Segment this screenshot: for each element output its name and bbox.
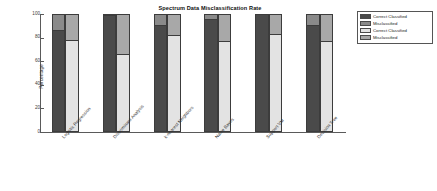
bar-segment-correct-classified <box>204 20 218 132</box>
y-tick-label: 20 <box>24 106 40 111</box>
page-title: Spectrum Data Misclassification Rate <box>95 5 325 11</box>
legend: Correct ClassifiedMisclassifiedCorrect C… <box>357 11 433 44</box>
bar-segment-correct-classified <box>103 16 117 132</box>
bar-segment-correct-classified <box>306 26 320 132</box>
y-tick-label: 60 <box>24 59 40 64</box>
legend-swatch-icon <box>360 21 371 26</box>
y-axis-tick-labels: 020406080100 <box>18 0 40 191</box>
legend-label: Misclassified <box>373 36 397 40</box>
bar-segment-misclassified <box>320 14 334 42</box>
stacked-bar[interactable] <box>320 14 334 132</box>
stacked-bar[interactable] <box>306 14 320 132</box>
y-tick-label: 0 <box>24 130 40 135</box>
y-tick-label: 40 <box>24 82 40 87</box>
legend-item[interactable]: Misclassified <box>360 34 430 40</box>
y-tick-mark <box>41 132 44 133</box>
bar-segment-misclassified <box>218 14 232 42</box>
bar-segment-misclassified <box>306 14 320 26</box>
bar-segment-misclassified <box>269 14 283 35</box>
legend-swatch-icon <box>360 28 371 33</box>
stacked-bar[interactable] <box>204 14 218 132</box>
x-axis-line <box>40 132 346 133</box>
stacked-bar[interactable] <box>269 14 283 132</box>
y-tick-label: 80 <box>24 35 40 40</box>
legend-swatch-icon <box>360 35 371 40</box>
legend-item[interactable]: Correct Classified <box>360 27 430 33</box>
stacked-bar[interactable] <box>52 14 66 132</box>
legend-item[interactable]: Correct Classified <box>360 14 430 20</box>
legend-label: Correct Classified <box>373 15 407 19</box>
y-tick-label: 100 <box>24 12 40 17</box>
bar-segment-correct-classified <box>154 26 168 132</box>
bar-segment-misclassified <box>154 14 168 26</box>
stacked-bar[interactable] <box>154 14 168 132</box>
bar-segment-misclassified <box>52 14 66 31</box>
bar-segment-misclassified <box>65 14 79 41</box>
bar-segment-correct-classified <box>52 31 66 132</box>
stacked-bar[interactable] <box>65 14 79 132</box>
y-axis-label: Percentage <box>39 64 44 89</box>
figure-canvas: Spectrum Data Misclassification Rate 020… <box>0 0 437 191</box>
legend-label: Misclassified <box>373 22 397 26</box>
stacked-bar[interactable] <box>218 14 232 132</box>
stacked-bar[interactable] <box>103 14 117 132</box>
stacked-bar[interactable] <box>116 14 130 132</box>
legend-item[interactable]: Misclassified <box>360 20 430 26</box>
stacked-bar[interactable] <box>255 14 269 132</box>
bar-segment-misclassified <box>167 14 181 36</box>
bar-segment-correct-classified <box>255 14 269 132</box>
legend-label: Correct Classified <box>373 29 407 33</box>
bar-segment-misclassified <box>116 14 130 55</box>
stacked-bar[interactable] <box>167 14 181 132</box>
legend-swatch-icon <box>360 14 371 19</box>
